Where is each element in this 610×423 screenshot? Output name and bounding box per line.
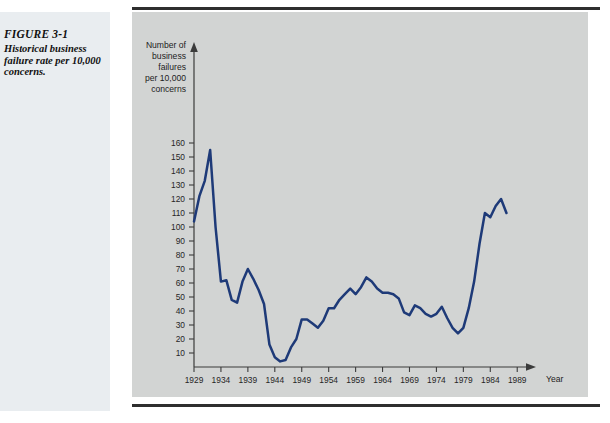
y-tick-label: 60 bbox=[176, 278, 186, 288]
x-tick-label: 1979 bbox=[454, 375, 473, 385]
x-tick-label: 1944 bbox=[265, 375, 284, 385]
x-tick-label: 1954 bbox=[319, 375, 338, 385]
business-failure-rate-line-chart: Number ofbusinessfailuresper 10,000conce… bbox=[132, 12, 588, 397]
data-series-line bbox=[194, 150, 506, 361]
y-tick-label: 80 bbox=[176, 250, 186, 260]
x-tick-label: 1934 bbox=[212, 375, 231, 385]
x-tick-label: 1929 bbox=[185, 375, 204, 385]
y-tick-label: 120 bbox=[171, 194, 185, 204]
y-tick-label: 150 bbox=[171, 152, 185, 162]
y-tick-label: 20 bbox=[176, 334, 186, 344]
y-tick-label: 40 bbox=[176, 306, 186, 316]
y-axis-title-line: failures bbox=[158, 62, 186, 72]
x-axis-ticks: 1929193419391944194919541959196419691974… bbox=[185, 367, 527, 385]
x-tick-label: 1939 bbox=[239, 375, 258, 385]
x-axis-title: Year bbox=[546, 374, 564, 384]
caption-panel: FIGURE 3-1 Historical business failure r… bbox=[0, 12, 110, 411]
y-tick-label: 100 bbox=[171, 222, 185, 232]
y-axis-title-line: business bbox=[152, 51, 186, 61]
x-tick-label: 1984 bbox=[481, 375, 500, 385]
y-axis-ticks: 102030405060708090100110120130140150160 bbox=[171, 138, 194, 358]
y-tick-label: 70 bbox=[176, 264, 186, 274]
y-axis-title-line: Number of bbox=[146, 40, 187, 50]
y-axis-title-line: per 10,000 bbox=[145, 73, 186, 83]
x-tick-label: 1989 bbox=[508, 375, 527, 385]
y-axis-arrowhead bbox=[190, 42, 198, 52]
y-tick-label: 90 bbox=[176, 236, 186, 246]
y-tick-label: 110 bbox=[172, 208, 186, 218]
y-tick-label: 10 bbox=[176, 348, 186, 358]
y-axis-title: Number ofbusinessfailuresper 10,000conce… bbox=[145, 40, 187, 94]
x-tick-label: 1959 bbox=[346, 375, 365, 385]
x-tick-label: 1969 bbox=[400, 375, 419, 385]
y-axis-title-line: concerns bbox=[151, 84, 186, 94]
chart-bottom-rule bbox=[132, 404, 600, 407]
chart-top-rule bbox=[132, 7, 600, 10]
y-tick-label: 160 bbox=[171, 138, 185, 148]
x-tick-label: 1949 bbox=[292, 375, 311, 385]
figure-caption: Historical business failure rate per 10,… bbox=[4, 43, 108, 78]
x-axis-arrowhead bbox=[526, 363, 536, 371]
y-tick-label: 30 bbox=[176, 320, 186, 330]
x-tick-label: 1974 bbox=[427, 375, 446, 385]
x-tick-label: 1964 bbox=[373, 375, 392, 385]
y-tick-label: 50 bbox=[176, 292, 186, 302]
y-tick-label: 130 bbox=[171, 180, 185, 190]
figure-label: FIGURE 3-1 bbox=[4, 28, 108, 40]
chart-panel: Number ofbusinessfailuresper 10,000conce… bbox=[132, 12, 588, 397]
y-tick-label: 140 bbox=[171, 166, 185, 176]
